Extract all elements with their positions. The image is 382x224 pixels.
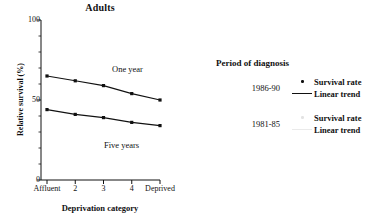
x-tick-label: 3 (102, 184, 106, 193)
data-point (130, 92, 133, 95)
data-point (102, 116, 105, 119)
legend-item-label: Linear trend (314, 89, 360, 99)
annotation-five-years: Five years (104, 140, 139, 150)
legend-item: Survival rate (290, 112, 361, 123)
x-tick-label: Affluent (34, 184, 61, 193)
legend-dot-icon (290, 76, 314, 87)
legend-group-1981-85: 1981-85Survival rateLinear trend (214, 112, 382, 135)
y-axis-ticks (37, 20, 41, 180)
legend-item-label: Survival rate (314, 113, 361, 123)
annotation-one-year: One year (112, 64, 143, 74)
legend-keys: Survival rateLinear trend (290, 76, 361, 99)
x-tick-label: Deprived (145, 184, 175, 193)
legend-period-label: 1981-85 (214, 112, 280, 129)
data-point (45, 108, 48, 111)
legend-line-faint-icon (290, 124, 314, 135)
x-axis-label: Deprivation category (10, 203, 190, 213)
trend-line-series-0 (47, 76, 160, 100)
legend-keys: Survival rateLinear trend (290, 112, 361, 135)
legend-item: Survival rate (290, 76, 361, 87)
legend-group-1986-90: 1986-90Survival rateLinear trend (214, 76, 382, 99)
legend-groups: 1986-90Survival rateLinear trend1981-85S… (214, 76, 382, 135)
data-point (45, 74, 48, 77)
data-point (74, 113, 77, 116)
legend-group-spacer (214, 99, 382, 112)
legend-item-label: Linear trend (314, 125, 360, 135)
figure-adults-relative-survival: Adults Relative survival (%) 100 50 0 Af… (0, 0, 382, 224)
data-point (158, 98, 161, 101)
data-point (158, 124, 161, 127)
data-series-layer (45, 74, 161, 127)
x-tick-label: 4 (130, 184, 134, 193)
legend: Period of diagnosis 1986-90Survival rate… (214, 58, 382, 135)
legend-item: Linear trend (290, 88, 361, 99)
legend-item: Linear trend (290, 124, 361, 135)
legend-period-label: 1986-90 (214, 76, 280, 93)
legend-line-icon (290, 88, 314, 99)
axes (41, 20, 160, 180)
legend-title: Period of diagnosis (216, 58, 382, 68)
x-tick-label: 2 (73, 184, 77, 193)
data-point (102, 84, 105, 87)
legend-dot-faint-icon (290, 112, 314, 123)
legend-item-label: Survival rate (314, 77, 361, 87)
data-point (130, 121, 133, 124)
data-point (74, 79, 77, 82)
